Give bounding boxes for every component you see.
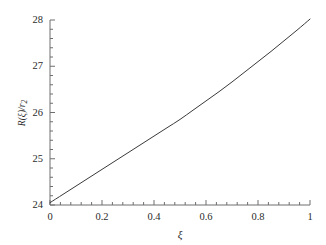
- x-axis-major-ticks: [50, 200, 310, 205]
- x-tick-label: 0.6: [199, 212, 212, 223]
- y-tick-label: 24: [33, 200, 44, 211]
- y-axis-title: R(ξ)/r2: [18, 99, 29, 125]
- y-axis-title-main: R(ξ)/r: [17, 103, 27, 126]
- y-axis-title-subscript: 2: [20, 99, 29, 103]
- plot-canvas: [0, 0, 326, 245]
- y-tick-label: 28: [33, 15, 44, 26]
- x-tick-label: 0.4: [147, 212, 160, 223]
- x-tick-label: 0: [47, 212, 52, 223]
- data-series-line: [50, 19, 310, 203]
- x-tick-label: 1: [307, 212, 312, 223]
- y-tick-label: 27: [33, 61, 44, 72]
- chart-figure: 00.20.40.60.81 2425262728 ξ R(ξ)/r2: [0, 0, 326, 245]
- x-tick-label: 0.2: [95, 212, 108, 223]
- x-axis-title: ξ: [178, 229, 183, 240]
- y-tick-label: 26: [33, 107, 44, 118]
- y-tick-label: 25: [33, 154, 44, 165]
- x-tick-label: 0.8: [251, 212, 264, 223]
